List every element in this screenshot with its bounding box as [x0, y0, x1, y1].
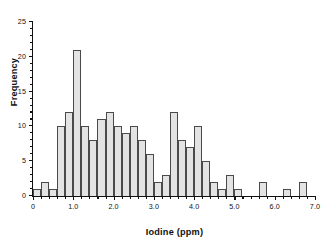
histogram-bar: [65, 112, 73, 196]
x-axis-tick-minor: [178, 196, 179, 199]
x-axis-tick-major: [194, 196, 195, 200]
histogram-bar: [49, 189, 57, 196]
x-axis: 01.02.03.04.05.06.07.0: [33, 196, 316, 220]
x-axis-tick-label: 6.0: [270, 202, 280, 211]
x-axis-tick-minor: [226, 196, 227, 199]
histogram-bar: [57, 126, 65, 196]
x-axis-tick-major: [114, 196, 115, 200]
x-axis-tick-minor: [106, 196, 107, 199]
x-axis-tick-label: 3.0: [149, 202, 159, 211]
x-axis-tick-label: 5.0: [229, 202, 239, 211]
histogram-bar: [226, 175, 234, 196]
x-axis-tick-minor: [138, 196, 139, 199]
x-axis-tick-label: 7.0: [310, 202, 320, 211]
histogram-figure: 0510152025 01.02.03.04.05.06.07.0 Iodine…: [0, 0, 321, 249]
y-axis-tick-label: 5: [22, 156, 26, 165]
y-axis-tick-label: 20: [18, 51, 26, 60]
x-axis-tick-minor: [267, 196, 268, 199]
x-axis-tick-label: 2.0: [108, 202, 118, 211]
x-axis-tick-minor: [65, 196, 66, 199]
histogram-bar: [259, 182, 267, 196]
x-axis-tick-minor: [97, 196, 98, 199]
plot-area: [33, 22, 315, 196]
histogram-bar: [162, 175, 170, 196]
x-axis-tick-minor: [57, 196, 58, 199]
x-axis-tick-minor: [202, 196, 203, 199]
histogram-bar: [234, 189, 242, 196]
x-axis-tick-minor: [186, 196, 187, 199]
x-axis-tick-minor: [130, 196, 131, 199]
histogram-bar: [210, 182, 218, 196]
y-axis-title: Frequency: [9, 32, 19, 132]
x-axis-tick-minor: [242, 196, 243, 199]
histogram-bar: [89, 140, 97, 196]
histogram-bar: [41, 182, 49, 196]
x-axis-tick-major: [315, 196, 316, 200]
histogram-bar: [218, 189, 226, 196]
x-axis-tick-label: 0: [31, 202, 35, 211]
x-axis-tick-major: [73, 196, 74, 200]
y-axis-tick-label: 10: [18, 121, 26, 130]
histogram-bar: [114, 126, 122, 196]
histogram-bar: [138, 140, 146, 196]
histogram-bar: [178, 140, 186, 196]
histogram-bar: [81, 126, 89, 196]
histogram-bar: [122, 133, 130, 196]
histogram-bar: [154, 182, 162, 196]
x-axis-tick-major: [234, 196, 235, 200]
histogram-bar: [194, 126, 202, 196]
x-axis-tick-minor: [146, 196, 147, 199]
histogram-bar: [97, 119, 105, 196]
histogram-bar: [130, 126, 138, 196]
x-axis-tick-minor: [122, 196, 123, 199]
x-axis-tick-minor: [291, 196, 292, 199]
x-axis-title: Iodine (ppm): [33, 227, 316, 237]
y-axis-tick-label: 15: [18, 86, 26, 95]
histogram-bar: [106, 112, 114, 196]
x-axis-tick-minor: [210, 196, 211, 199]
x-axis-tick-major: [275, 196, 276, 200]
y-axis-tick-label: 0: [22, 191, 26, 200]
x-axis-tick-major: [154, 196, 155, 200]
histogram-bar: [33, 189, 41, 196]
y-axis-tick-label: 25: [18, 17, 26, 26]
histogram-bar: [202, 161, 210, 196]
x-axis-tick-minor: [89, 196, 90, 199]
x-axis-tick-minor: [307, 196, 308, 199]
histogram-bar: [186, 147, 194, 196]
x-axis-tick-minor: [299, 196, 300, 199]
x-axis-tick-minor: [162, 196, 163, 199]
x-axis-tick-label: 4.0: [189, 202, 199, 211]
x-axis-tick-label: 1.0: [68, 202, 78, 211]
histogram-bar: [146, 154, 154, 196]
x-axis-tick-minor: [218, 196, 219, 199]
histogram-bar: [73, 50, 81, 196]
histogram-bar: [299, 182, 307, 196]
histogram-bar: [283, 189, 291, 196]
x-axis-tick-minor: [170, 196, 171, 199]
x-axis-tick-minor: [81, 196, 82, 199]
x-axis-tick-minor: [251, 196, 252, 199]
x-axis-tick-major: [33, 196, 34, 200]
x-axis-tick-minor: [259, 196, 260, 199]
histogram-bar: [170, 112, 178, 196]
x-axis-tick-minor: [283, 196, 284, 199]
x-axis-tick-minor: [41, 196, 42, 199]
x-axis-tick-minor: [49, 196, 50, 199]
